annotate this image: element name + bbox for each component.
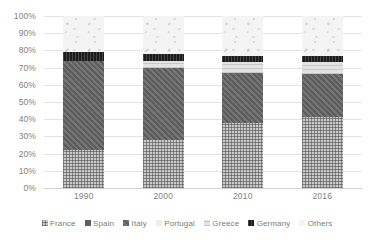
bar-segment-others[interactable] bbox=[143, 16, 184, 54]
bar-group-2016[interactable] bbox=[302, 16, 343, 188]
legend-label: Others bbox=[308, 219, 333, 228]
bar-stack bbox=[222, 16, 263, 188]
chart-legend: FranceSpainItalyPortugalGreeceGermanyOth… bbox=[0, 216, 374, 230]
plot-area bbox=[44, 16, 362, 188]
legend-item-others[interactable]: Others bbox=[299, 219, 332, 228]
y-axis-tick-label: 80% bbox=[19, 46, 36, 55]
bar-segment-greece[interactable] bbox=[143, 61, 184, 68]
bar-segment-others[interactable] bbox=[302, 16, 343, 56]
bar-group-2010[interactable] bbox=[222, 16, 263, 188]
bar-segment-others[interactable] bbox=[63, 16, 104, 52]
bar-segment-france[interactable] bbox=[63, 150, 104, 188]
bar-stack bbox=[63, 16, 104, 188]
y-axis-tick-label: 10% bbox=[19, 166, 36, 175]
y-axis-tick-label: 100% bbox=[14, 12, 36, 21]
legend-swatch-france-icon bbox=[42, 220, 48, 226]
y-axis-tick-label: 30% bbox=[19, 132, 36, 141]
x-axis-tick-label: 2000 bbox=[153, 190, 173, 202]
legend-item-greece[interactable]: Greece bbox=[204, 219, 239, 228]
bar-segment-germany[interactable] bbox=[63, 52, 104, 61]
x-axis-tick-label: 2016 bbox=[312, 190, 332, 202]
legend-label: Greece bbox=[212, 219, 239, 228]
x-axis-tick-label: 2010 bbox=[233, 190, 253, 202]
bar-segment-italy[interactable] bbox=[222, 73, 263, 123]
y-axis-tick-label: 0% bbox=[24, 184, 37, 193]
legend-swatch-others-icon bbox=[299, 220, 305, 226]
legend-swatch-italy-icon bbox=[123, 220, 129, 226]
y-axis: 0%10%20%30%40%50%60%70%80%90%100% bbox=[0, 16, 40, 188]
legend-label: Italy bbox=[132, 219, 147, 228]
legend-swatch-greece-icon bbox=[204, 220, 210, 226]
bar-stack bbox=[143, 16, 184, 188]
x-axis: 1990200020102016 bbox=[44, 190, 362, 206]
bar-segment-germany[interactable] bbox=[302, 56, 343, 63]
bar-segment-greece[interactable] bbox=[302, 62, 343, 74]
bar-segment-others[interactable] bbox=[222, 16, 263, 56]
bar-stack bbox=[302, 16, 343, 188]
y-axis-tick-label: 20% bbox=[19, 149, 36, 158]
bar-segment-france[interactable] bbox=[302, 117, 343, 188]
y-axis-tick-label: 40% bbox=[19, 115, 36, 124]
stacked-bar-chart: 0%10%20%30%40%50%60%70%80%90%100% 199020… bbox=[0, 0, 374, 244]
y-axis-tick-label: 90% bbox=[19, 29, 36, 38]
legend-item-spain[interactable]: Spain bbox=[85, 219, 114, 228]
legend-label: France bbox=[50, 219, 76, 228]
legend-swatch-portugal-icon bbox=[156, 220, 162, 226]
bar-segment-italy[interactable] bbox=[302, 74, 343, 117]
legend-item-germany[interactable]: Germany bbox=[248, 219, 290, 228]
legend-label: Germany bbox=[257, 219, 291, 228]
bar-segment-germany[interactable] bbox=[222, 56, 263, 63]
y-axis-tick-label: 70% bbox=[19, 63, 36, 72]
bar-group-1990[interactable] bbox=[63, 16, 104, 188]
gridline bbox=[44, 188, 362, 189]
bar-group-2000[interactable] bbox=[143, 16, 184, 188]
x-axis-tick-label: 1990 bbox=[74, 190, 94, 202]
legend-label: Portugal bbox=[164, 219, 195, 228]
bar-segment-greece[interactable] bbox=[222, 62, 263, 72]
bar-segment-germany[interactable] bbox=[143, 54, 184, 61]
legend-item-france[interactable]: France bbox=[42, 219, 76, 228]
bar-segment-italy[interactable] bbox=[143, 68, 184, 140]
bar-segment-france[interactable] bbox=[222, 123, 263, 188]
legend-swatch-germany-icon bbox=[248, 220, 254, 226]
bar-segment-france[interactable] bbox=[143, 140, 184, 188]
bar-segment-italy[interactable] bbox=[63, 61, 104, 150]
legend-item-portugal[interactable]: Portugal bbox=[156, 219, 195, 228]
y-axis-tick-label: 60% bbox=[19, 80, 36, 89]
y-axis-tick-label: 50% bbox=[19, 98, 36, 107]
legend-swatch-spain-icon bbox=[85, 220, 91, 226]
legend-item-italy[interactable]: Italy bbox=[123, 219, 147, 228]
legend-label: Spain bbox=[93, 219, 114, 228]
